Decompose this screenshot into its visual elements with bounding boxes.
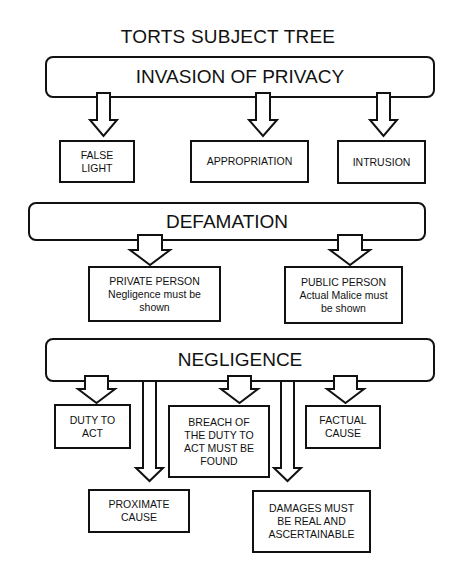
- arrow-factual-cause: [327, 376, 364, 403]
- node-public-person: PUBLIC PERSON Actual Malice must be show…: [284, 266, 403, 324]
- arrow-false-light: [90, 93, 117, 136]
- node-breach-of-duty: BREACH OF THE DUTY TO ACT MUST BE FOUND: [168, 405, 270, 478]
- node-damages: DAMAGES MUST BE REAL AND ASCERTAINABLE: [252, 490, 371, 553]
- node-proximate-cause: PROXIMATE CAUSE: [88, 489, 190, 533]
- arrow-intrusion: [370, 93, 397, 136]
- node-factual-cause: FACTUAL CAUSE: [305, 405, 381, 449]
- node-private-person: PRIVATE PERSON Negligence must be shown: [88, 266, 221, 322]
- node-appropriation: APPROPRIATION: [190, 140, 309, 183]
- node-duty-to-act: DUTY TO ACT: [54, 404, 131, 449]
- node-intrusion: INTRUSION: [337, 140, 426, 184]
- arrow-duty-to-act: [78, 376, 115, 403]
- node-false-light: FALSE LIGHT: [59, 140, 135, 183]
- arrow-breach: [221, 376, 258, 403]
- arrow-appropriation: [249, 93, 277, 136]
- arrow-private-person: [130, 235, 170, 265]
- arrow-public-person: [330, 235, 370, 265]
